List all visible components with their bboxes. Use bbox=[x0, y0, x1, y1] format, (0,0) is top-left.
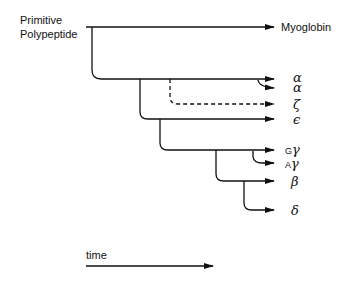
branch-g-gamma bbox=[160, 119, 274, 150]
leaf-delta: δ bbox=[291, 204, 299, 217]
globin-evolution-tree bbox=[0, 0, 352, 281]
root-label-polypeptide: Polypeptide bbox=[20, 28, 78, 41]
time-axis-label: time bbox=[86, 249, 107, 262]
g-gamma-symbol: γ bbox=[292, 142, 300, 157]
branch-alpha bbox=[92, 27, 274, 79]
leaf-epsilon: ϵ bbox=[293, 113, 300, 126]
branch-alpha-2 bbox=[258, 80, 274, 88]
leaf-beta: β bbox=[291, 175, 299, 188]
leaf-zeta: ζ bbox=[293, 98, 300, 111]
branch-beta bbox=[216, 150, 274, 181]
branch-epsilon bbox=[140, 79, 274, 119]
branch-delta bbox=[244, 181, 274, 210]
leaf-myoglobin: Myoglobin bbox=[281, 21, 331, 34]
g-gamma-prefix: G bbox=[285, 146, 292, 156]
leaf-a-gamma: Aγ bbox=[285, 157, 299, 172]
root-label-primitive: Primitive bbox=[20, 14, 62, 27]
leaf-alpha-2: α bbox=[293, 81, 302, 94]
a-gamma-symbol: γ bbox=[291, 156, 299, 171]
branch-a-gamma bbox=[253, 151, 274, 163]
